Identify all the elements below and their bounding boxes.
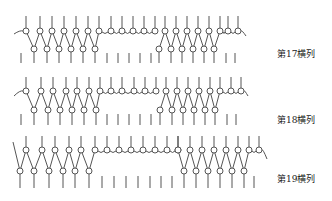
lower-loop <box>169 107 175 113</box>
lower-loop <box>93 107 99 113</box>
float-yarn <box>114 92 119 94</box>
upper-loop <box>23 28 29 34</box>
lower-loop <box>86 168 92 174</box>
upper-loop <box>39 147 45 153</box>
float-yarn <box>170 151 175 153</box>
lower-loop <box>80 46 86 52</box>
lower-loop <box>81 107 87 113</box>
upper-loop <box>211 147 217 153</box>
lower-loop <box>156 46 162 52</box>
upper-loop <box>108 88 114 94</box>
yarn-lead-out <box>262 150 267 159</box>
upper-loop <box>185 88 191 94</box>
lower-loop <box>45 107 51 113</box>
upper-loop <box>38 88 44 94</box>
upper-loop <box>52 147 58 153</box>
upper-loop <box>256 147 262 153</box>
upper-loop <box>163 88 169 94</box>
float-yarn <box>147 32 152 34</box>
upper-loop <box>108 28 114 34</box>
upper-loop <box>92 147 98 153</box>
upper-loop <box>184 28 190 34</box>
float-yarn <box>134 151 140 153</box>
float-yarn <box>103 92 108 94</box>
float-yarn <box>158 151 164 153</box>
upper-loop <box>74 88 80 94</box>
lower-loop <box>181 168 187 174</box>
upper-loop <box>164 147 170 153</box>
upper-loop <box>140 147 146 153</box>
lower-loop <box>68 46 74 52</box>
float-yarn <box>231 32 235 34</box>
lower-loop <box>31 46 37 52</box>
row-label-17: 第17横列 <box>277 47 315 60</box>
upper-loop <box>206 28 212 34</box>
upper-loop <box>235 28 241 34</box>
upper-loop <box>66 147 72 153</box>
float-yarn <box>125 32 130 34</box>
upper-loop <box>116 147 122 153</box>
lower-loop <box>31 107 37 113</box>
lower-loop <box>69 107 75 113</box>
upper-loop <box>153 88 159 94</box>
float-yarn <box>223 32 225 34</box>
upper-loop <box>23 147 29 153</box>
yarn-lead-out <box>241 31 246 36</box>
upper-loop <box>173 28 179 34</box>
upper-loop <box>78 147 84 153</box>
upper-loop <box>128 147 134 153</box>
upper-loop <box>225 28 231 34</box>
upper-loop <box>162 28 168 34</box>
upper-loop <box>63 88 69 94</box>
float-yarn <box>110 151 116 153</box>
upper-loop <box>207 88 213 94</box>
upper-loop <box>37 28 43 34</box>
upper-loop <box>49 28 55 34</box>
yarn-lead-in <box>14 91 23 96</box>
upper-loop <box>235 147 241 153</box>
upper-loop <box>195 28 201 34</box>
float-yarn <box>114 32 119 34</box>
lower-loop <box>190 46 196 52</box>
lower-loop <box>92 46 98 52</box>
lower-loop <box>44 46 50 52</box>
lower-loop <box>168 46 174 52</box>
float-yarn <box>122 151 128 153</box>
lower-loop <box>217 168 223 174</box>
lower-loop <box>31 168 37 174</box>
float-yarn <box>125 92 131 94</box>
yarn-lead-in <box>14 31 23 34</box>
upper-loop <box>152 147 158 153</box>
upper-loop <box>141 28 147 34</box>
float-yarn <box>234 92 238 94</box>
upper-loop <box>96 28 102 34</box>
knitting-diagram <box>0 0 332 201</box>
lower-loop <box>46 168 52 174</box>
upper-loop <box>174 88 180 94</box>
float-yarn <box>137 92 142 94</box>
upper-loop <box>119 88 125 94</box>
lower-loop <box>201 46 207 52</box>
upper-loop <box>196 88 202 94</box>
upper-loop <box>187 147 193 153</box>
lower-loop <box>212 107 218 113</box>
upper-loop <box>175 147 181 153</box>
upper-loop <box>73 28 79 34</box>
upper-loop <box>86 88 92 94</box>
float-yarn <box>223 92 228 94</box>
row-label-18: 第18横列 <box>277 113 315 126</box>
upper-loop <box>152 28 158 34</box>
lower-loop <box>56 46 62 52</box>
float-yarn <box>102 32 108 34</box>
lower-loop <box>180 107 186 113</box>
upper-loop <box>228 88 234 94</box>
upper-loop <box>50 88 56 94</box>
upper-loop <box>238 88 244 94</box>
lower-loop <box>57 107 63 113</box>
float-yarn <box>136 32 141 34</box>
lower-loop <box>193 168 199 174</box>
lower-loop <box>211 46 217 52</box>
lower-loop <box>229 168 235 174</box>
upper-loop <box>217 28 223 34</box>
upper-loop <box>23 88 29 94</box>
